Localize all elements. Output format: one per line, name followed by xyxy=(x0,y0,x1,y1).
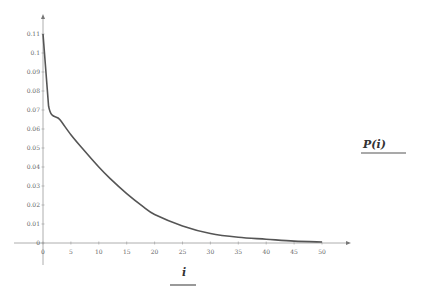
x-tick-label: 50 xyxy=(318,248,326,255)
y-tick-label: 0.11 xyxy=(27,30,40,37)
x-tick-label: 35 xyxy=(234,248,242,255)
x-tick-label: 15 xyxy=(123,248,131,255)
x-tick-label: 5 xyxy=(69,248,73,255)
x-tick-label: 20 xyxy=(151,248,159,255)
x-tick-label: 10 xyxy=(95,248,103,255)
ticks: 0510152025303540455000.010.020.030.040.0… xyxy=(27,30,326,255)
y-tick-label: 0.07 xyxy=(27,106,41,113)
y-tick-label: 0.08 xyxy=(27,87,41,94)
y-tick-label: 0.01 xyxy=(27,220,40,227)
x-tick-label: 25 xyxy=(179,248,187,255)
y-tick-label: 0.09 xyxy=(27,68,41,75)
x-tick-label: 30 xyxy=(207,248,215,255)
y-tick-label: 0 xyxy=(36,239,40,246)
y-tick-label: 0.05 xyxy=(27,144,41,151)
y-tick-label: 0.04 xyxy=(27,163,41,170)
x-axis-arrow-icon xyxy=(346,241,351,245)
y-tick-label: 0.02 xyxy=(27,201,41,208)
y-tick-label: 0.1 xyxy=(30,49,40,56)
series-line xyxy=(43,34,322,242)
line-chart: 0510152025303540455000.010.020.030.040.0… xyxy=(0,0,422,302)
x-tick-label: 0 xyxy=(41,248,45,255)
y-axis-label: P(i) xyxy=(362,138,386,151)
x-axis-label: i xyxy=(182,266,186,279)
x-tick-label: 40 xyxy=(262,248,270,255)
axes xyxy=(14,14,351,265)
x-tick-label: 45 xyxy=(290,248,298,255)
y-axis-arrow-icon xyxy=(41,14,45,19)
y-tick-label: 0.03 xyxy=(27,182,41,189)
y-tick-label: 0.06 xyxy=(27,125,41,132)
